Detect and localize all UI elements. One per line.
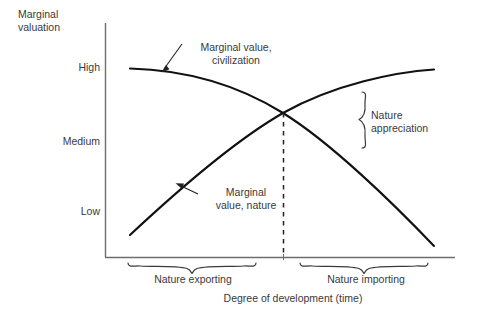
region-label-nature-exporting: Nature exporting xyxy=(122,273,264,286)
chart-figure: Marginal valuation High Medium Low Margi… xyxy=(0,0,488,321)
y-tick-label-medium: Medium xyxy=(42,135,100,148)
civilization-callout-arrow xyxy=(162,44,183,73)
annotation-marginal-value-civilization: Marginal value, civilization xyxy=(184,41,288,67)
annotation-marginal-value-nature: Marginal value, nature xyxy=(200,186,292,212)
nature-appreciation-brace xyxy=(359,92,366,148)
x-axis-title: Degree of development (time) xyxy=(155,292,431,305)
y-axis-title: Marginal valuation xyxy=(18,8,60,34)
y-tick-label-low: Low xyxy=(52,205,100,218)
region-label-nature-importing: Nature importing xyxy=(295,273,437,286)
nature-exporting-brace xyxy=(128,263,256,274)
curve-marginal-value-civilization xyxy=(130,69,434,247)
annotation-nature-appreciation: Nature appreciation xyxy=(371,109,467,135)
y-tick-label-high: High xyxy=(52,61,100,74)
nature-importing-brace xyxy=(300,263,428,274)
